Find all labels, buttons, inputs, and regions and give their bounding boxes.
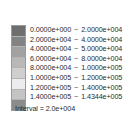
range-high-value: 2.0000e+004 [81,25,122,35]
interval-label: Interval = 2.0e+004 [15,104,75,113]
range-low-value: 1.2000e+005 [30,83,71,93]
range-separator: ~ [71,54,81,64]
range-separator: ~ [71,73,81,83]
range-high-value: 1.0000e+005 [81,63,122,73]
legend-range-row: 6.0000e+004 ~ 8.0000e+004 [30,54,122,64]
color-swatch [12,78,25,89]
range-low-value: 6.0000e+004 [30,54,71,64]
range-high-value: 4.0000e+004 [81,35,122,45]
colorbar-legend-panel: 0.0000e+000 ~ 2.0000e+004 2.0000e+004 ~ … [0,0,129,129]
legend-range-row: 2.0000e+004 ~ 4.0000e+004 [30,35,122,45]
range-separator: ~ [71,44,81,54]
color-swatch [12,36,25,47]
range-separator: ~ [71,83,81,93]
range-low-value: 0.0000e+000 [30,25,71,35]
legend-range-row: 1.2000e+005 ~ 1.4000e+005 [30,83,122,93]
range-high-value: 1.4344e+005 [81,92,122,102]
legend-range-row: 8.0000e+004 ~ 1.0000e+005 [30,63,122,73]
color-swatch [12,57,25,68]
legend-range-row: 0.0000e+000 ~ 2.0000e+004 [30,25,122,35]
range-separator: ~ [71,92,81,102]
range-high-value: 1.4000e+005 [81,83,122,93]
color-swatch [12,26,25,36]
range-low-value: 2.0000e+004 [30,35,71,45]
range-high-value: 8.0000e+004 [81,54,122,64]
legend-range-row: 1.0000e+005 ~ 1.2000e+005 [30,73,122,83]
range-low-value: 8.0000e+004 [30,63,71,73]
range-separator: ~ [71,25,81,35]
range-low-value: 4.0000e+004 [30,44,71,54]
color-swatch [12,67,25,78]
legend-range-row: 4.0000e+004 ~ 5.0000e+004 [30,44,122,54]
range-label-column: 0.0000e+000 ~ 2.0000e+004 2.0000e+004 ~ … [30,25,122,102]
color-swatch [12,46,25,57]
range-high-value: 5.0000e+004 [81,44,122,54]
range-high-value: 1.2000e+005 [81,73,122,83]
range-separator: ~ [71,35,81,45]
range-low-value: 1.0000e+005 [30,73,71,83]
colorbar-swatch-column [11,25,26,111]
range-separator: ~ [71,63,81,73]
range-low-value: 1.4000e+005 [30,92,71,102]
legend-range-row: 1.4000e+005 ~ 1.4344e+005 [30,92,122,102]
legend-body: 0.0000e+000 ~ 2.0000e+004 2.0000e+004 ~ … [11,25,122,111]
color-swatch [12,89,25,100]
